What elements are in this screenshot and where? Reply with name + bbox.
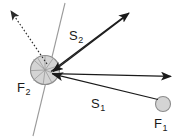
label-f1: F1 [154, 117, 167, 130]
vector-reaction-dotted [11, 11, 47, 64]
label-f2: F2 [17, 81, 30, 94]
vector-s1-outgoing [52, 74, 171, 77]
label-s2-subscript: 2 [78, 35, 83, 45]
vector-s2-incoming [53, 16, 126, 72]
label-f2-subscript: 2 [25, 87, 30, 97]
force-vector-diagram: S2 S1 F2 F1 [0, 0, 182, 139]
label-s1-base: S [91, 96, 100, 111]
label-f1-base: F [154, 116, 162, 131]
label-f1-subscript: 1 [162, 123, 167, 133]
label-s2: S2 [69, 29, 83, 42]
label-s1: S1 [91, 97, 105, 110]
vector-s1-incoming [53, 74, 158, 99]
vector-s2-outgoing [51, 13, 129, 72]
body-f1-circle [156, 97, 171, 112]
label-s1-subscript: 1 [100, 103, 105, 113]
label-s2-base: S [69, 28, 78, 43]
label-f2-base: F [17, 80, 25, 95]
